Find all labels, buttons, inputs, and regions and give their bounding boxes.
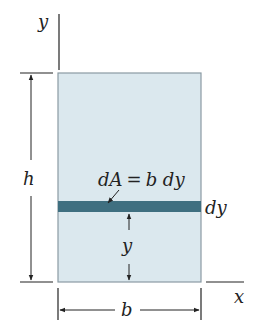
x-axis-label: x xyxy=(234,286,244,307)
area-moment-diagram: y x dA=b dy dy y h b xyxy=(0,0,260,329)
y-axis-label: y xyxy=(37,11,49,32)
differential-strip xyxy=(58,201,201,212)
height-label: h xyxy=(23,168,35,189)
strip-thickness-label: dy xyxy=(205,197,228,218)
width-label: b xyxy=(121,299,133,320)
strip-offset-label: y xyxy=(121,235,133,256)
